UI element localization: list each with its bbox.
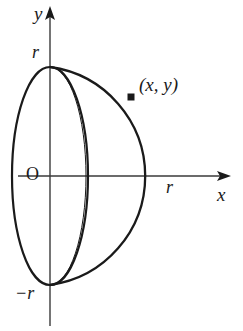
x-axis-label: x [217,185,225,204]
origin-label: O [26,165,39,183]
y-negative-tick-label: −r [15,284,34,302]
point-marker-dot [128,94,135,101]
x-positive-tick-label: r [166,178,173,196]
point-coordinate-label: (x, y) [139,75,178,94]
y-axis-label: y [34,4,42,23]
hemisphere-figure: y x r −r r O (x, y) [0,0,243,331]
y-positive-tick-label: r [32,43,39,61]
